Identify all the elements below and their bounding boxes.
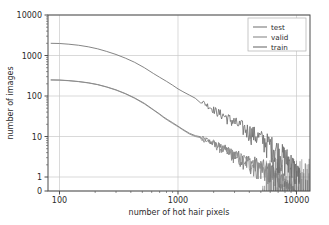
data-series-layer bbox=[51, 43, 309, 191]
y-axis-label: number of images bbox=[6, 66, 15, 139]
x-tick-label: 10000 bbox=[284, 196, 309, 205]
series-line-train bbox=[51, 43, 299, 184]
legend-label-test: test bbox=[271, 23, 285, 32]
y-tick-label: 10 bbox=[32, 133, 42, 142]
y-tick-label: 10000 bbox=[17, 11, 42, 20]
x-tick-label: 1000 bbox=[168, 196, 188, 205]
chart-figure: 1001000100000110100100010000 testvalidtr… bbox=[0, 0, 329, 225]
chart-legend: testvalidtrain bbox=[248, 18, 306, 52]
y-tick-label: 1000 bbox=[22, 52, 42, 61]
legend-label-train: train bbox=[271, 43, 288, 52]
chart-canvas: 1001000100000110100100010000 testvalidtr… bbox=[0, 0, 329, 225]
y-tick-label: 1 bbox=[37, 173, 42, 182]
y-tick-label: 100 bbox=[27, 92, 42, 101]
x-axis-label: number of hot hair pixels bbox=[129, 208, 230, 217]
y-tick-label: 0 bbox=[37, 187, 42, 196]
x-tick-label: 100 bbox=[52, 196, 67, 205]
legend-label-valid: valid bbox=[271, 33, 288, 42]
